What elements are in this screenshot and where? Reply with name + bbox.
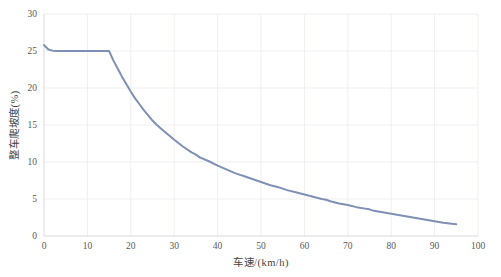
gradeability-chart: 0510152025300102030405060708090100 整车爬坡度… <box>0 0 501 277</box>
x-tick-label: 60 <box>300 241 310 251</box>
y-tick-label: 15 <box>28 120 38 130</box>
plot-area: 0510152025300102030405060708090100 <box>0 0 501 277</box>
x-tick-labels: 0102030405060708090100 <box>42 241 486 251</box>
y-tick-labels: 051015202530 <box>28 9 38 241</box>
x-tick-label: 100 <box>471 241 486 251</box>
x-tick-label: 70 <box>343 241 353 251</box>
y-axis-title: 整车爬坡度(%) <box>6 90 21 160</box>
series-line <box>44 45 456 224</box>
x-tick-label: 50 <box>256 241 266 251</box>
y-tick-label: 0 <box>32 231 37 241</box>
x-tick-label: 20 <box>126 241 136 251</box>
x-tick-label: 10 <box>83 241 93 251</box>
x-tick-label: 40 <box>213 241 223 251</box>
y-tick-label: 25 <box>28 46 38 56</box>
y-tick-label: 5 <box>32 194 37 204</box>
y-tick-label: 20 <box>28 83 38 93</box>
x-axis-title: 车速/(km/h) <box>233 254 289 269</box>
x-tick-label: 30 <box>169 241 179 251</box>
x-tick-label: 80 <box>386 241 396 251</box>
y-tick-label: 30 <box>28 9 38 19</box>
x-tick-label: 0 <box>42 241 47 251</box>
y-tick-label: 10 <box>28 157 38 167</box>
x-tick-label: 90 <box>430 241 440 251</box>
gridlines <box>44 14 478 236</box>
